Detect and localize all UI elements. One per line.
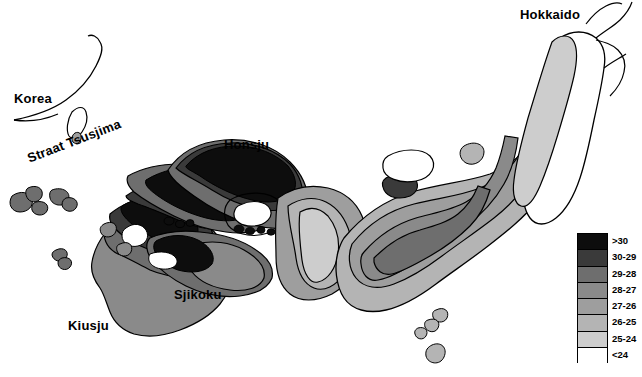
legend-swatch-0 bbox=[578, 234, 607, 250]
kiusju-inner-island-a bbox=[100, 222, 116, 237]
label-sjikoku: Sjikoku bbox=[174, 288, 222, 301]
legend-label-1: 30-29 bbox=[612, 252, 636, 262]
honsju-noto-white-bay bbox=[383, 150, 434, 182]
legend-swatch-1 bbox=[578, 250, 607, 266]
legend-swatch-7 bbox=[578, 348, 607, 364]
legend-label-3: 28-27 bbox=[612, 285, 636, 295]
legend-swatch-4 bbox=[578, 299, 607, 315]
map-figure: Korea Straat Tsusjima Honsju Sjikoku Kiu… bbox=[0, 0, 642, 377]
legend-label-4: 27-26 bbox=[612, 301, 636, 311]
legend-label-column: >3030-2929-2828-2727-2626-2525-24<24 bbox=[612, 233, 642, 363]
kiusju-inner-island-b bbox=[117, 243, 132, 256]
honsju-inland-sea-white-enclave bbox=[234, 202, 271, 227]
legend-swatch-2 bbox=[578, 267, 607, 283]
legend-swatch-6 bbox=[578, 332, 607, 348]
label-hokkaido: Hokkaido bbox=[520, 8, 580, 21]
sado-island bbox=[460, 143, 484, 164]
legend-swatch-5 bbox=[578, 315, 607, 331]
legend-swatch-box bbox=[577, 233, 608, 363]
label-honsju: Honsju bbox=[224, 138, 269, 151]
legend-label-2: 29-28 bbox=[612, 269, 636, 279]
legend-label-0: >30 bbox=[612, 236, 628, 246]
label-korea: Korea bbox=[14, 92, 52, 105]
legend-label-6: 25-24 bbox=[612, 334, 636, 344]
legend-label-7: <24 bbox=[612, 350, 628, 360]
legend-swatch-3 bbox=[578, 283, 607, 299]
label-kiusju: Kiusju bbox=[68, 319, 109, 332]
legend-label-5: 26-25 bbox=[612, 317, 636, 327]
